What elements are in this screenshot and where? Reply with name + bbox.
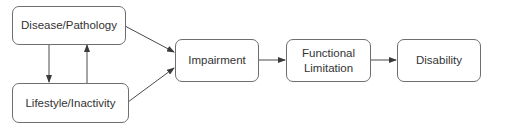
- arrow-lifestyle-to-impairment: [128, 68, 174, 102]
- node-disease-pathology: Disease/Pathology: [12, 6, 126, 45]
- node-label: Functional Limitation: [302, 46, 355, 76]
- node-label: Disease/Pathology: [21, 18, 117, 33]
- node-label: Disability: [416, 53, 462, 68]
- node-label: Impairment: [188, 53, 246, 68]
- node-lifestyle-inactivity: Lifestyle/Inactivity: [12, 83, 129, 123]
- arrow-disease-to-impairment: [125, 26, 174, 52]
- node-label: Lifestyle/Inactivity: [25, 96, 115, 111]
- node-functional-limitation: Functional Limitation: [286, 39, 371, 82]
- node-impairment: Impairment: [175, 39, 259, 82]
- node-disability: Disability: [397, 39, 481, 82]
